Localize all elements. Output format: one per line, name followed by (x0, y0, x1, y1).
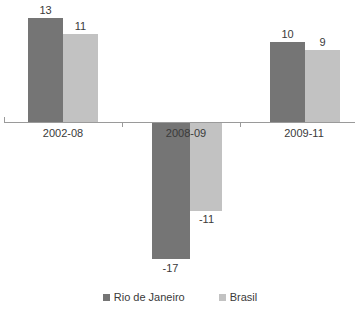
bar-value-rio-2002-08: 13 (23, 4, 68, 16)
category-label-2009-11: 2009-11 (259, 127, 349, 140)
category-label-2002-08: 2002-08 (18, 127, 108, 140)
legend-label-rio-de-janeiro: Rio de Janeiro (114, 291, 185, 304)
legend-label-brasil: Brasil (230, 291, 258, 304)
axis-tick-start (4, 117, 5, 123)
plot-area: 13 11 2002-08 -17 -11 2008-09 10 9 2009-… (0, 0, 360, 285)
bar-rio-2008-09 (152, 123, 190, 259)
bar-brasil-2009-11 (305, 50, 340, 122)
bar-value-rio-2008-09: -17 (148, 262, 193, 274)
chart-legend: Rio de Janeiro Brasil (0, 291, 360, 304)
legend-swatch-icon-brasil (219, 294, 226, 301)
legend-item-brasil[interactable]: Brasil (219, 291, 258, 304)
bar-value-brasil-2008-09: -11 (184, 213, 229, 225)
category-label-2008-09: 2008-09 (141, 127, 231, 140)
legend-swatch-icon-rio-de-janeiro (103, 294, 110, 301)
bar-brasil-2002-08 (63, 34, 98, 122)
bar-value-brasil-2002-08: 11 (58, 20, 103, 32)
axis-tick-1 (122, 122, 123, 127)
bar-rio-2009-11 (270, 42, 305, 122)
legend-item-rio-de-janeiro[interactable]: Rio de Janeiro (103, 291, 185, 304)
axis-tick-2 (240, 122, 241, 127)
bar-chart: 13 11 2002-08 -17 -11 2008-09 10 9 2009-… (0, 0, 360, 311)
bar-rio-2002-08 (28, 18, 63, 122)
bar-value-brasil-2009-11: 9 (300, 36, 345, 48)
